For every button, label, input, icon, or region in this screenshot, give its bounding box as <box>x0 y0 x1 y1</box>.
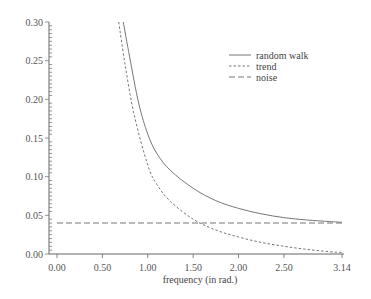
spectrum-chart: 0.000.050.100.150.200.250.300.000.501.00… <box>0 0 371 299</box>
x-tick-label: 2.00 <box>230 262 248 273</box>
x-tick-label: 1.50 <box>184 262 202 273</box>
legend-label: trend <box>256 61 277 72</box>
y-tick-label: 0.05 <box>26 210 44 221</box>
y-tick-label: 0.20 <box>26 94 44 105</box>
y-tick-label: 0.30 <box>26 17 44 28</box>
x-tick-label: 3.14 <box>333 262 351 273</box>
x-tick-label: 2.50 <box>275 262 293 273</box>
x-tick-label: 0.50 <box>94 262 112 273</box>
x-tick-label: 0.00 <box>48 262 66 273</box>
y-tick-label: 0.25 <box>26 55 44 66</box>
y-tick-label: 0.15 <box>26 133 44 144</box>
legend-label: noise <box>256 72 278 83</box>
x-axis-title: frequency (in rad.) <box>163 274 238 286</box>
legend-label: random walk <box>256 50 309 61</box>
y-tick-label: 0.10 <box>26 171 44 182</box>
random-walk-line <box>123 22 342 222</box>
x-tick-label: 1.00 <box>139 262 157 273</box>
legend: random walktrendnoise <box>229 50 309 83</box>
y-tick-label: 0.00 <box>26 249 44 260</box>
trend-line <box>119 22 342 252</box>
